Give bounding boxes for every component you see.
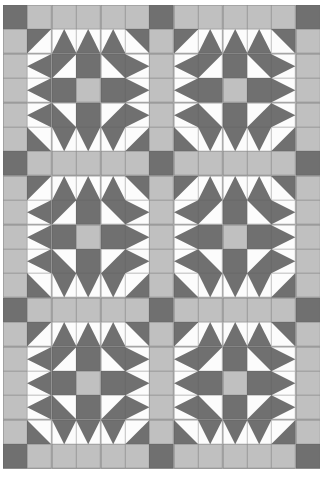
sashing-patch xyxy=(149,273,173,297)
sashing-patch xyxy=(149,127,173,151)
flying-geese-patch xyxy=(76,176,100,200)
flying-geese-patch xyxy=(52,420,76,444)
sashing-patch xyxy=(296,322,320,346)
sashing-patch xyxy=(198,444,222,468)
cornerstone-patch xyxy=(3,5,27,29)
flying-geese-patch xyxy=(76,420,100,444)
sashing-patch xyxy=(149,29,173,53)
sashing-patch xyxy=(296,273,320,297)
flying-geese-patch xyxy=(101,176,125,200)
sashing-patch xyxy=(223,444,247,468)
star-point-patch xyxy=(76,103,100,127)
sashing-patch xyxy=(76,444,100,468)
flying-geese-patch xyxy=(27,371,51,395)
sashing-patch xyxy=(149,371,173,395)
flying-geese-patch xyxy=(174,54,198,78)
flying-geese-patch xyxy=(271,371,295,395)
sashing-patch xyxy=(271,5,295,29)
cornerstone-patch xyxy=(149,151,173,175)
flying-geese-patch xyxy=(27,200,51,224)
flying-geese-patch xyxy=(198,127,222,151)
half-square-triangle-patch xyxy=(198,200,222,224)
half-square-triangle-patch xyxy=(52,395,76,419)
flying-geese-patch xyxy=(125,225,149,249)
flying-geese-patch xyxy=(174,225,198,249)
sashing-patch xyxy=(271,298,295,322)
cornerstone-patch xyxy=(3,151,27,175)
half-square-triangle-patch xyxy=(174,29,198,53)
sashing-patch xyxy=(3,322,27,346)
half-square-triangle-patch xyxy=(271,322,295,346)
half-square-triangle-patch xyxy=(125,176,149,200)
half-square-triangle-patch xyxy=(271,273,295,297)
half-square-triangle-patch xyxy=(101,54,125,78)
half-square-triangle-patch xyxy=(247,395,271,419)
flying-geese-patch xyxy=(52,322,76,346)
flying-geese-patch xyxy=(271,103,295,127)
star-point-patch xyxy=(52,371,76,395)
sashing-patch xyxy=(149,322,173,346)
flying-geese-patch xyxy=(27,249,51,273)
sashing-patch xyxy=(3,78,27,102)
half-square-triangle-patch xyxy=(52,54,76,78)
sashing-patch xyxy=(149,420,173,444)
flying-geese-patch xyxy=(76,322,100,346)
cornerstone-patch xyxy=(149,444,173,468)
flying-geese-patch xyxy=(125,103,149,127)
flying-geese-patch xyxy=(174,200,198,224)
flying-geese-patch xyxy=(52,176,76,200)
flying-geese-patch xyxy=(223,420,247,444)
sashing-patch xyxy=(101,298,125,322)
sashing-patch xyxy=(247,151,271,175)
center-square-patch xyxy=(76,371,100,395)
sashing-patch xyxy=(27,151,51,175)
cornerstone-patch xyxy=(3,298,27,322)
half-square-triangle-patch xyxy=(27,29,51,53)
cornerstone-patch xyxy=(3,444,27,468)
sashing-patch xyxy=(198,298,222,322)
sashing-patch xyxy=(3,200,27,224)
flying-geese-patch xyxy=(174,78,198,102)
flying-geese-patch xyxy=(247,176,271,200)
sashing-patch xyxy=(296,371,320,395)
half-square-triangle-patch xyxy=(174,176,198,200)
flying-geese-patch xyxy=(223,176,247,200)
center-square-patch xyxy=(223,78,247,102)
flying-geese-patch xyxy=(52,127,76,151)
sashing-patch xyxy=(52,298,76,322)
cornerstone-patch xyxy=(296,5,320,29)
sashing-patch xyxy=(125,444,149,468)
sashing-patch xyxy=(149,176,173,200)
flying-geese-patch xyxy=(174,395,198,419)
flying-geese-patch xyxy=(247,273,271,297)
half-square-triangle-patch xyxy=(271,127,295,151)
flying-geese-patch xyxy=(27,78,51,102)
star-point-patch xyxy=(247,225,271,249)
half-square-triangle-patch xyxy=(125,29,149,53)
sashing-patch xyxy=(247,5,271,29)
star-point-patch xyxy=(198,371,222,395)
half-square-triangle-patch xyxy=(125,322,149,346)
half-square-triangle-patch xyxy=(101,249,125,273)
flying-geese-patch xyxy=(76,273,100,297)
sashing-patch xyxy=(174,298,198,322)
star-point-patch xyxy=(223,249,247,273)
sashing-patch xyxy=(296,29,320,53)
sashing-patch xyxy=(3,273,27,297)
flying-geese-patch xyxy=(27,103,51,127)
sashing-patch xyxy=(296,225,320,249)
flying-geese-patch xyxy=(125,249,149,273)
star-point-patch xyxy=(76,395,100,419)
sashing-patch xyxy=(27,5,51,29)
half-square-triangle-patch xyxy=(198,103,222,127)
sashing-patch xyxy=(76,298,100,322)
half-square-triangle-patch xyxy=(174,322,198,346)
flying-geese-patch xyxy=(101,322,125,346)
flying-geese-patch xyxy=(101,127,125,151)
flying-geese-patch xyxy=(125,200,149,224)
half-square-triangle-patch xyxy=(27,127,51,151)
sashing-patch xyxy=(223,5,247,29)
flying-geese-patch xyxy=(223,29,247,53)
flying-geese-patch xyxy=(174,103,198,127)
sashing-patch xyxy=(223,298,247,322)
